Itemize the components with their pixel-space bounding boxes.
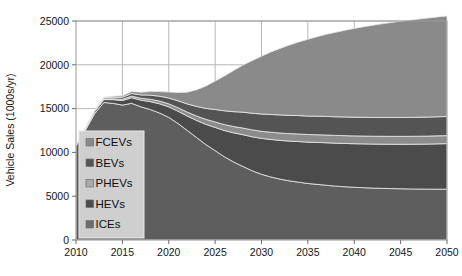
x-tick-label: 2010 [64,246,88,258]
x-tick-label: 2045 [389,246,413,258]
x-axis-tick-labels: 201020152020202520302035204020452050 [64,246,459,258]
y-tick-label: 25000 [40,15,69,27]
stacked-area-chart: 0500010000150002000025000 20102015202020… [0,0,462,276]
legend-swatch-ices [86,221,94,229]
y-tick-label: 0 [63,234,69,246]
legend-label-hevs: HEVs [96,198,126,210]
x-tick-label: 2035 [296,246,320,258]
legend-label-fcevs: FCEVs [96,136,133,148]
x-tick-label: 2025 [203,246,227,258]
y-tick-label: 15000 [40,102,69,114]
legend-label-phevs: PHEVs [96,177,133,189]
y-tick-label: 10000 [40,146,69,158]
x-tick-label: 2015 [111,246,135,258]
legend-swatch-fcevs [86,139,94,147]
x-tick-label: 2050 [435,246,459,258]
chart-legend: FCEVsBEVsPHEVsHEVsICEs [79,131,144,238]
x-tick-label: 2020 [157,246,181,258]
y-tick-label: 20000 [40,59,69,71]
legend-label-ices: ICEs [96,218,121,230]
legend-label-bevs: BEVs [96,157,125,169]
legend-swatch-phevs [86,180,94,188]
x-tick-label: 2040 [343,246,367,258]
legend-swatch-bevs [86,159,94,167]
y-tick-label: 5000 [46,190,70,202]
chart-figure: 0500010000150002000025000 20102015202020… [0,0,462,276]
y-axis-title: Vehicle Sales (1000s/yr) [4,73,16,186]
legend-swatch-hevs [86,200,94,208]
x-tick-label: 2030 [250,246,274,258]
